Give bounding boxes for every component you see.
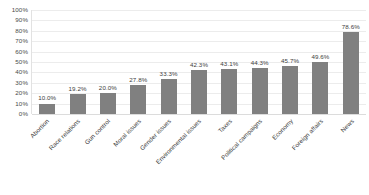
bar-slot: 43.1% <box>214 10 244 114</box>
bar[interactable] <box>100 93 116 114</box>
bar[interactable] <box>343 32 359 114</box>
x-axis-slot: Political campaigns <box>244 116 274 195</box>
axis-baseline <box>32 114 366 115</box>
bar-chart: 100%90%80%70%60%50%40%30%20%10%0% 10.0%1… <box>0 0 369 195</box>
bar-value-label: 49.6% <box>311 54 329 60</box>
bar[interactable] <box>161 79 177 114</box>
x-axis-category-label: Abortion <box>29 118 50 139</box>
bar-value-label: 43.1% <box>220 61 238 67</box>
bar-value-label: 44.3% <box>251 60 269 66</box>
bar[interactable] <box>191 70 207 114</box>
bar-slot: 44.3% <box>245 10 275 114</box>
x-axis-category-label: Taxes <box>217 118 233 134</box>
x-axis-slot: Abortion <box>31 116 61 195</box>
bar-value-label: 45.7% <box>281 58 299 64</box>
y-axis-tick-label: 60% <box>15 48 28 54</box>
bar-slot: 33.3% <box>153 10 183 114</box>
bar-slot: 42.3% <box>184 10 214 114</box>
bar-value-label: 19.2% <box>69 86 87 92</box>
bar-slot: 10.0% <box>32 10 62 114</box>
x-axis-slot: Moral issues <box>122 116 152 195</box>
x-axis-slot: Environmental issues <box>183 116 213 195</box>
y-axis-tick-label: 90% <box>15 17 28 23</box>
bar-slot: 49.6% <box>305 10 335 114</box>
plot-wrapper: 100%90%80%70%60%50%40%30%20%10%0% 10.0%1… <box>0 0 369 130</box>
y-axis-tick-label: 20% <box>15 90 28 96</box>
bar-series: 10.0%19.2%20.0%27.8%33.3%42.3%43.1%44.3%… <box>32 10 366 114</box>
plot-area: 10.0%19.2%20.0%27.8%33.3%42.3%43.1%44.3%… <box>31 10 366 114</box>
y-axis-tick-label: 40% <box>15 69 28 75</box>
bar-value-label: 78.6% <box>342 24 360 30</box>
bar-value-label: 27.8% <box>129 77 147 83</box>
y-axis-tick-label: 30% <box>15 80 28 86</box>
bar-slot: 45.7% <box>275 10 305 114</box>
x-axis-slot: News <box>336 116 366 195</box>
bar[interactable] <box>221 69 237 114</box>
x-axis-slot: Economy <box>275 116 305 195</box>
y-axis-tick-label: 80% <box>15 28 28 34</box>
y-axis: 100%90%80%70%60%50%40%30%20%10%0% <box>0 10 30 114</box>
x-axis-slot: Race relations <box>61 116 91 195</box>
x-axis-slot: Foreign affairs <box>305 116 335 195</box>
bar[interactable] <box>252 68 268 114</box>
x-axis: AbortionRace relationsGun controlMoral i… <box>31 116 366 195</box>
bar-slot: 27.8% <box>123 10 153 114</box>
bar-slot: 20.0% <box>93 10 123 114</box>
bar-value-label: 42.3% <box>190 62 208 68</box>
bar-value-label: 10.0% <box>38 95 56 101</box>
y-axis-tick-label: 10% <box>15 100 28 106</box>
y-axis-tick-label: 70% <box>15 38 28 44</box>
bar[interactable] <box>130 85 146 114</box>
bar[interactable] <box>282 66 298 114</box>
x-axis-category-label: News <box>340 118 356 134</box>
bar[interactable] <box>70 94 86 114</box>
x-axis-category-label: Economy <box>271 118 294 141</box>
y-axis-tick-label: 0% <box>19 111 28 117</box>
bar-value-label: 20.0% <box>99 85 117 91</box>
bar-value-label: 33.3% <box>160 71 178 77</box>
y-axis-tick-label: 100% <box>12 7 28 13</box>
x-axis-slot: Gun control <box>92 116 122 195</box>
y-axis-tick-label: 50% <box>15 59 28 65</box>
bar[interactable] <box>312 62 328 114</box>
bar[interactable] <box>39 104 55 114</box>
bar-slot: 19.2% <box>62 10 92 114</box>
bar-slot: 78.6% <box>336 10 366 114</box>
